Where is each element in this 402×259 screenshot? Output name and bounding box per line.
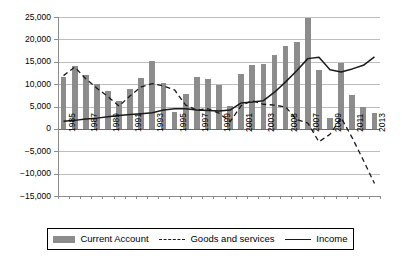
x-axis-tick-label-2007: 2007 (312, 113, 321, 132)
x-tick-mark (336, 196, 337, 199)
legend-label-income: Income (316, 234, 347, 244)
x-tick-mark (158, 196, 159, 199)
y-axis-tick-label: 0 (46, 124, 51, 133)
x-axis-tick-label-1999: 1999 (223, 113, 232, 132)
x-axis-tick-label-2011: 2011 (356, 114, 365, 132)
legend-item-income: Income (285, 234, 347, 244)
x-tick-mark (347, 196, 348, 199)
x-tick-mark (91, 196, 92, 199)
x-tick-mark (191, 196, 192, 199)
x-tick-mark (225, 196, 226, 199)
x-axis-tick-label-2003: 2003 (267, 113, 276, 132)
x-tick-mark (324, 196, 325, 199)
y-axis-tick-label: 25,000 (25, 13, 51, 22)
y-axis-tick-label: 5,000 (30, 102, 51, 111)
x-tick-mark (369, 196, 370, 199)
chart-legend: Current Account Goods and services Incom… (47, 228, 354, 250)
x-tick-mark (380, 196, 381, 199)
line-series-group (58, 17, 380, 196)
x-axis-tick-label-2009: 2009 (334, 113, 343, 132)
chart-screenshot: 25,00020,00015,00010,0005,0000−5,000−10,… (0, 0, 402, 259)
x-tick-mark (236, 196, 237, 199)
x-axis-tick-label-2001: 2001 (245, 113, 254, 132)
bar-swatch-icon (53, 236, 75, 243)
x-tick-mark (258, 196, 259, 199)
x-tick-mark (247, 196, 248, 199)
x-tick-mark (80, 196, 81, 199)
x-tick-mark (147, 196, 148, 199)
y-axis-tick-label: 20,000 (25, 35, 51, 44)
x-tick-mark (202, 196, 203, 199)
x-axis-tick-label-1985: 1985 (68, 113, 77, 132)
y-axis-tick-label: −15,000 (20, 192, 51, 201)
x-tick-mark (114, 196, 115, 199)
x-axis-baseline (58, 196, 380, 197)
x-tick-mark (136, 196, 137, 199)
legend-item-goods-and-services: Goods and services (159, 234, 274, 244)
x-axis-tick-label-1993: 1993 (156, 113, 165, 132)
x-tick-mark (58, 196, 59, 199)
x-tick-mark (180, 196, 181, 199)
x-tick-mark (125, 196, 126, 199)
income-line (64, 57, 375, 121)
solid-line-swatch-icon (285, 239, 311, 240)
chart-plot-region: 25,00020,00015,00010,0005,0000−5,000−10,… (0, 0, 402, 214)
legend-label-goods-and-services: Goods and services (190, 234, 274, 244)
x-tick-mark (302, 196, 303, 199)
x-tick-mark (102, 196, 103, 199)
x-tick-mark (291, 196, 292, 199)
y-axis-tick-label: 10,000 (25, 80, 51, 89)
x-axis-tick-label-1987: 1987 (90, 113, 99, 132)
x-tick-mark (313, 196, 314, 199)
x-tick-mark (269, 196, 270, 199)
x-tick-mark (169, 196, 170, 199)
x-axis-tick-label-1991: 1991 (134, 113, 143, 132)
x-tick-mark (280, 196, 281, 199)
dashed-line-swatch-icon (159, 239, 185, 240)
x-tick-mark (358, 196, 359, 199)
x-axis-tick-label-1989: 1989 (112, 113, 121, 132)
legend-item-current-account: Current Account (53, 234, 148, 244)
x-axis-tick-label-1997: 1997 (201, 113, 210, 132)
y-axis-tick-label: −5,000 (25, 147, 51, 156)
x-axis-tick-label-1995: 1995 (179, 113, 188, 132)
x-tick-mark (213, 196, 214, 199)
legend-label-current-account: Current Account (80, 234, 148, 244)
x-tick-mark (69, 196, 70, 199)
x-axis-tick-label-2013: 2013 (378, 113, 387, 132)
y-axis-tick-label: −10,000 (20, 169, 51, 178)
y-axis-tick-label: 15,000 (25, 57, 51, 66)
x-axis-tick-label-2005: 2005 (290, 113, 299, 132)
